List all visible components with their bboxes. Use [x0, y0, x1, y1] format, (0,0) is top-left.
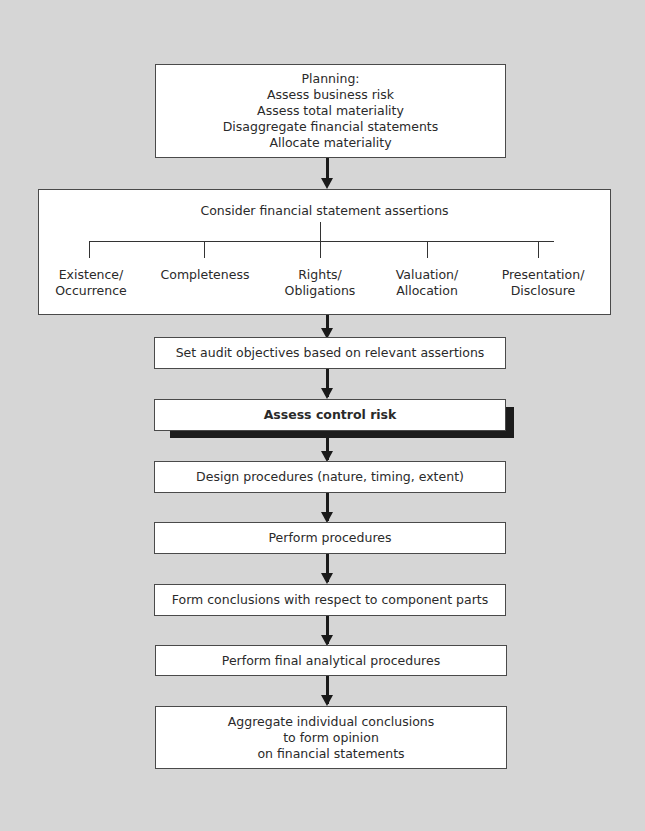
step-design-procedures: Design procedures (nature, timing, exten…: [154, 461, 506, 493]
assertion-completeness: Completeness: [150, 267, 260, 283]
assertion-label: Existence/: [36, 267, 146, 283]
assertions-bar: [89, 241, 554, 242]
planning-line: Allocate materiality: [269, 135, 391, 151]
step-final-analytical: Perform final analytical procedures: [155, 645, 507, 676]
assertions-trunk: [320, 222, 321, 242]
final-opinion-box: Aggregate individual conclusions to form…: [155, 706, 507, 769]
step-label: Set audit objectives based on relevant a…: [176, 345, 485, 361]
assertions-branch: [89, 241, 90, 258]
assertion-valuation: Valuation/ Allocation: [372, 267, 482, 299]
step-perform-procedures: Perform procedures: [154, 522, 506, 554]
assertion-rights: Rights/ Obligations: [265, 267, 375, 299]
step-label: Perform final analytical procedures: [222, 653, 440, 669]
assertions-branch: [427, 241, 428, 258]
assertion-label: Rights/: [265, 267, 375, 283]
step-label: Assess control risk: [264, 407, 397, 423]
assertions-branch: [320, 241, 321, 258]
assertion-label: Presentation/: [488, 267, 598, 283]
step-set-objectives: Set audit objectives based on relevant a…: [154, 337, 506, 369]
assertions-branch: [204, 241, 205, 258]
step-form-conclusions: Form conclusions with respect to compone…: [154, 584, 506, 616]
planning-line: Disaggregate financial statements: [223, 119, 439, 135]
final-line: to form opinion: [283, 730, 379, 746]
assertion-label: Occurrence: [36, 283, 146, 299]
assertion-label: Obligations: [265, 283, 375, 299]
step-assess-control-risk: Assess control risk: [154, 399, 506, 431]
planning-line: Assess business risk: [267, 87, 394, 103]
step-label: Form conclusions with respect to compone…: [172, 592, 489, 608]
assertion-label: Allocation: [372, 283, 482, 299]
assertion-label: Disclosure: [488, 283, 598, 299]
final-line: on financial statements: [257, 746, 404, 762]
assertion-existence: Existence/ Occurrence: [36, 267, 146, 299]
step-label: Perform procedures: [269, 530, 392, 546]
assertion-presentation: Presentation/ Disclosure: [488, 267, 598, 299]
assertions-branch: [538, 241, 539, 258]
planning-line: Assess total materiality: [257, 103, 404, 119]
assertion-label: Completeness: [150, 267, 260, 283]
planning-box: Planning: Assess business risk Assess to…: [155, 64, 506, 158]
final-line: Aggregate individual conclusions: [228, 714, 435, 730]
planning-title: Planning:: [301, 71, 359, 87]
step-label: Design procedures (nature, timing, exten…: [196, 469, 464, 485]
assertion-label: Valuation/: [372, 267, 482, 283]
assertions-title: Consider financial statement assertions: [39, 203, 610, 219]
